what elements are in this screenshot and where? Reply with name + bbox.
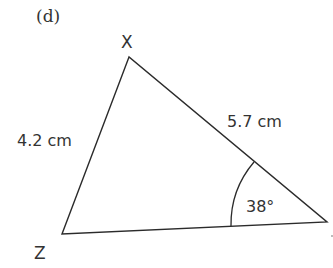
angle-label: 38°: [246, 197, 274, 216]
vertex-label-z: Z: [34, 243, 46, 263]
angle-arc: [231, 162, 254, 226]
part-label: (d): [36, 6, 60, 26]
side-label-xy: 5.7 cm: [227, 112, 282, 131]
side-label-xz: 4.2 cm: [17, 131, 72, 150]
triangle-diagram: (d) X Z 4.2 cm 5.7 cm 38°: [0, 0, 333, 268]
vertex-label-x: X: [121, 32, 133, 52]
triangle: [62, 57, 327, 234]
